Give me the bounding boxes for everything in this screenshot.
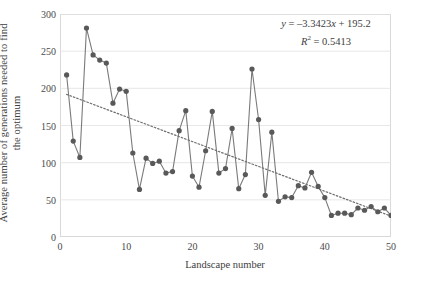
data-point	[249, 66, 254, 71]
data-point	[177, 128, 182, 133]
data-point	[296, 183, 301, 188]
data-point	[335, 211, 340, 216]
data-point	[375, 209, 380, 214]
data-point	[77, 155, 82, 160]
data-point	[355, 205, 360, 210]
data-point	[183, 108, 188, 113]
data-point	[329, 213, 334, 218]
data-point	[263, 193, 268, 198]
y-axis-tick-label: 100	[28, 157, 56, 168]
data-point-markers	[64, 26, 391, 219]
data-point	[97, 57, 102, 62]
data-point	[163, 170, 168, 175]
x-axis-tick-labels: 01020304050	[0, 241, 421, 257]
r-squared-value: R2 = 0.5413	[256, 31, 396, 49]
x-axis-tick-label: 10	[111, 241, 141, 252]
data-point	[289, 195, 294, 200]
data-point	[117, 86, 122, 91]
data-point	[236, 186, 241, 191]
data-point	[84, 26, 89, 31]
data-point	[362, 208, 367, 213]
data-point	[302, 185, 307, 190]
data-point	[170, 169, 175, 174]
x-axis-tick-label: 30	[244, 241, 274, 252]
data-point	[369, 204, 374, 209]
data-series-line	[67, 28, 391, 215]
y-axis-title-line1: Average number of generations needed to …	[0, 3, 10, 243]
data-point	[150, 161, 155, 166]
data-point	[143, 156, 148, 161]
data-point	[124, 89, 129, 94]
trendline-equation-annotation: y = –3.3423x + 195.2 R2 = 0.5413	[256, 17, 396, 49]
data-point	[382, 205, 387, 210]
y-axis-tick-label: 250	[28, 46, 56, 57]
data-point	[203, 148, 208, 153]
regression-equation: y = –3.3423x + 195.2	[256, 17, 396, 31]
trendline	[67, 94, 391, 216]
x-axis-title: Landscape number	[60, 259, 390, 270]
data-point	[64, 72, 69, 77]
data-point	[243, 172, 248, 177]
y-axis-tick-label: 50	[28, 194, 56, 205]
figure-container: Average number of generations needed to …	[0, 0, 421, 291]
data-point	[269, 130, 274, 135]
y-axis-tick-label: 200	[28, 83, 56, 94]
data-point	[282, 194, 287, 199]
x-axis-tick-label: 40	[310, 241, 340, 252]
data-point	[91, 52, 96, 57]
data-point	[196, 185, 201, 190]
r-value: = 0.5413	[311, 36, 351, 47]
data-point	[223, 166, 228, 171]
data-point	[190, 173, 195, 178]
data-point	[130, 150, 135, 155]
equation-body: = –3.3423	[286, 18, 331, 29]
data-point	[276, 199, 281, 204]
x-axis-tick-label: 20	[177, 241, 207, 252]
y-axis-title-line2: the optimum	[10, 3, 23, 243]
data-point	[230, 126, 235, 131]
data-point	[210, 109, 215, 114]
x-axis-tick-label: 0	[45, 241, 75, 252]
data-point	[71, 139, 76, 144]
data-point	[342, 211, 347, 216]
data-point	[157, 159, 162, 164]
x-axis-tick-label: 50	[376, 241, 406, 252]
data-point	[216, 170, 221, 175]
y-axis-tick-label: 150	[28, 120, 56, 131]
data-point	[104, 60, 109, 65]
data-point	[110, 101, 115, 106]
data-point	[309, 170, 314, 175]
data-point	[137, 187, 142, 192]
y-axis-tick-label: 300	[28, 9, 56, 20]
equation-suffix: + 195.2	[336, 18, 371, 29]
data-point	[349, 212, 354, 217]
data-point	[322, 195, 327, 200]
data-point	[316, 184, 321, 189]
data-point	[256, 117, 261, 122]
